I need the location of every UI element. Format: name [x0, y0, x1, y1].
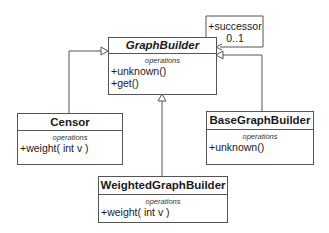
class-censor[interactable]: Censor operations +weight( int v ) — [17, 113, 123, 165]
section-label: operations — [109, 56, 216, 65]
section-label: operations — [99, 197, 227, 206]
class-name: WeightedGraphBuilder — [99, 177, 227, 195]
censor-generalization-line — [69, 51, 102, 113]
role-name: +successor — [207, 20, 263, 32]
class-name: Censor — [18, 114, 122, 131]
base-generalization-line — [222, 55, 262, 111]
class-weighted-graph-builder[interactable]: WeightedGraphBuilder operations +weight(… — [98, 176, 228, 223]
operation: +unknown() — [109, 65, 216, 77]
section-label: operations — [207, 132, 313, 141]
generalization-arrow-icon — [216, 51, 223, 59]
generalization-arrow-icon — [158, 94, 166, 101]
class-graph-builder[interactable]: GraphBuilder operations +unknown() +get(… — [108, 37, 217, 95]
class-name: GraphBuilder — [109, 38, 216, 54]
generalization-arrow-icon — [101, 47, 108, 55]
operation: +weight( int v ) — [99, 206, 227, 218]
operation: +unknown() — [207, 141, 313, 153]
operation: +weight( int v ) — [18, 142, 122, 154]
operation: +get() — [109, 77, 216, 89]
section-label: operations — [18, 133, 122, 142]
class-name: BaseGraphBuilder — [207, 112, 313, 130]
class-base-graph-builder[interactable]: BaseGraphBuilder operations +unknown() — [206, 111, 314, 165]
